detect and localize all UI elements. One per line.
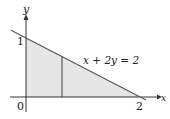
y-axis-label: y [22,3,30,16]
origin-label: 0 [17,100,24,113]
x-axis-label: x [161,93,166,103]
diagram-canvas: y x 1 0 2 x + 2y = 2 [0,0,170,119]
y-tick-label: 1 [17,35,24,48]
x-tick-label: 2 [136,100,143,113]
line-equation-label: x + 2y = 2 [83,54,139,66]
